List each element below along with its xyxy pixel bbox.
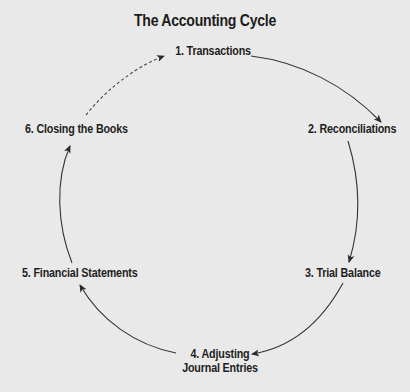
cycle-arrows xyxy=(0,0,410,392)
node-label: 1. Transactions xyxy=(175,44,251,58)
node-closing-the-books: 6. Closing the Books xyxy=(25,122,128,136)
node-label-line2: Journal Entries xyxy=(177,361,263,375)
node-adjusting-journal-entries: 4. Adjusting Journal Entries xyxy=(177,347,263,375)
accounting-cycle-diagram: The Accounting Cycle 1. Transactions 2. … xyxy=(0,0,410,392)
node-label: 6. Closing the Books xyxy=(25,122,128,136)
node-label: 3. Trial Balance xyxy=(305,266,381,280)
node-label-line1: 4. Adjusting xyxy=(177,347,263,361)
dashed-arrow-icon xyxy=(86,56,164,115)
arrow-icon xyxy=(80,285,176,353)
arrow-icon xyxy=(251,56,381,122)
node-financial-statements: 5. Financial Statements xyxy=(22,266,138,280)
arrow-icon xyxy=(252,283,343,354)
node-label: 5. Financial Statements xyxy=(22,266,138,280)
node-transactions: 1. Transactions xyxy=(170,44,256,58)
node-label: 2. Reconciliations xyxy=(308,122,396,136)
node-reconciliations: 2. Reconciliations xyxy=(308,122,396,136)
arrow-icon xyxy=(348,141,358,262)
arrow-icon xyxy=(60,146,72,263)
node-trial-balance: 3. Trial Balance xyxy=(305,266,381,280)
